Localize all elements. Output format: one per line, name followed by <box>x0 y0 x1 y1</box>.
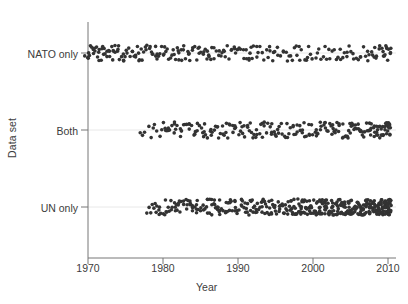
data-point <box>122 58 126 62</box>
data-point <box>380 133 384 137</box>
data-point <box>388 201 392 205</box>
data-point <box>341 202 345 206</box>
data-point <box>162 121 166 125</box>
data-point <box>164 50 168 54</box>
data-point <box>310 211 314 215</box>
data-point <box>352 123 356 127</box>
data-point <box>89 44 93 48</box>
data-point <box>383 125 387 129</box>
data-point <box>261 198 265 202</box>
data-point <box>357 127 361 131</box>
data-point <box>380 46 384 50</box>
data-point <box>261 121 265 125</box>
data-point <box>247 213 251 217</box>
data-point <box>380 198 384 202</box>
data-point <box>248 51 252 55</box>
data-point <box>240 198 244 202</box>
data-point <box>188 199 192 203</box>
data-point <box>375 131 379 135</box>
data-point <box>216 125 220 129</box>
y-tick-label-nato-only: NATO only <box>28 48 78 60</box>
data-point <box>330 211 334 215</box>
data-point <box>350 121 354 125</box>
data-point <box>312 209 316 213</box>
data-point <box>334 213 338 217</box>
data-point <box>279 54 283 58</box>
data-point <box>280 132 284 136</box>
data-point <box>358 204 362 208</box>
data-point <box>287 54 291 58</box>
data-point <box>182 199 186 203</box>
data-point <box>347 212 351 216</box>
axis-lines <box>88 22 396 258</box>
data-point <box>358 128 362 132</box>
data-point <box>365 121 369 125</box>
data-point <box>353 210 357 214</box>
data-point <box>207 55 211 59</box>
data-point <box>193 45 197 49</box>
data-point <box>367 53 371 57</box>
data-point <box>329 210 333 214</box>
data-point <box>236 48 240 52</box>
data-point <box>183 123 187 127</box>
data-point <box>378 201 382 205</box>
data-point <box>381 211 385 215</box>
data-point <box>195 208 199 212</box>
data-point <box>345 55 349 59</box>
data-point <box>379 127 383 131</box>
data-point <box>343 213 347 217</box>
data-point <box>258 45 262 49</box>
data-point <box>291 211 295 215</box>
data-point <box>167 126 171 130</box>
data-point <box>385 46 389 50</box>
y-tick-both: Both <box>0 125 78 137</box>
data-point <box>270 211 274 215</box>
data-point <box>341 212 345 216</box>
data-point <box>249 45 253 49</box>
data-point <box>375 209 379 213</box>
data-point <box>327 213 331 217</box>
data-point <box>361 130 365 134</box>
data-point <box>375 212 379 216</box>
data-point <box>335 213 339 217</box>
data-point <box>270 212 274 216</box>
data-point <box>144 48 148 52</box>
data-point <box>155 129 159 133</box>
data-point <box>232 45 236 49</box>
data-point <box>388 123 392 127</box>
data-point <box>218 209 222 213</box>
plot-area <box>0 0 408 304</box>
data-point <box>359 205 363 209</box>
data-point <box>242 57 246 61</box>
data-point <box>233 127 237 131</box>
data-point <box>328 211 332 215</box>
data-point <box>322 55 326 59</box>
data-point <box>346 209 350 213</box>
data-point <box>226 210 230 214</box>
data-point <box>188 59 192 63</box>
data-point <box>369 133 373 137</box>
data-point <box>368 205 372 209</box>
data-point <box>284 136 288 140</box>
data-point <box>389 126 393 130</box>
data-point <box>357 202 361 206</box>
data-point <box>179 48 183 52</box>
data-point <box>338 47 342 51</box>
data-point <box>344 134 348 138</box>
data-point <box>302 200 306 204</box>
data-point <box>191 204 195 208</box>
data-point <box>140 58 144 62</box>
data-point <box>162 53 166 57</box>
data-point <box>291 59 295 63</box>
data-point <box>167 129 171 133</box>
data-point <box>214 206 218 210</box>
data-point <box>359 130 363 134</box>
data-point <box>83 54 87 58</box>
data-point <box>382 212 386 216</box>
data-point <box>243 135 247 139</box>
data-point <box>305 207 309 211</box>
data-point <box>314 128 318 132</box>
data-point <box>307 123 311 127</box>
data-point <box>299 48 303 52</box>
data-point <box>334 128 338 132</box>
